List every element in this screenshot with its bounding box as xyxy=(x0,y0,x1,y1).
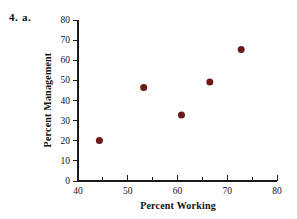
y-tick-label: 30 xyxy=(0,116,70,126)
data-point xyxy=(178,111,185,118)
x-tick-label: 50 xyxy=(123,186,133,196)
y-axis-title: Percent Management xyxy=(42,53,53,148)
axes-group xyxy=(78,20,277,181)
x-tick-label: 70 xyxy=(223,186,233,196)
scatter-plot-figure: 4.a. 01020304050607080 4050607080 Percen… xyxy=(0,0,297,219)
x-axis-title: Percent Working xyxy=(140,200,216,211)
y-tick-label: 10 xyxy=(0,156,70,166)
x-tick-label: 40 xyxy=(73,186,83,196)
x-tick-label: 60 xyxy=(173,186,183,196)
data-point xyxy=(206,78,213,85)
data-point xyxy=(96,137,103,144)
data-point xyxy=(140,84,147,91)
data-points-group xyxy=(96,46,245,144)
y-tick-label: 50 xyxy=(0,75,70,85)
data-point xyxy=(238,46,245,53)
x-tick-label: 80 xyxy=(272,186,282,196)
y-tick-label: 0 xyxy=(0,176,70,186)
y-tick-label: 40 xyxy=(0,96,70,106)
ticks-group xyxy=(73,20,277,181)
y-tick-label: 20 xyxy=(0,136,70,146)
y-tick-label: 60 xyxy=(0,55,70,65)
y-tick-label: 70 xyxy=(0,35,70,45)
y-tick-label: 80 xyxy=(0,15,70,25)
